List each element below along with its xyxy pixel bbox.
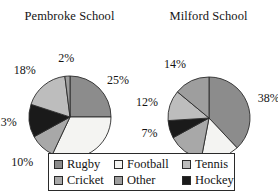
legend-swatch-icon [182, 160, 191, 169]
legend-item-football: Football [114, 158, 182, 171]
legend-swatch-icon [54, 176, 63, 185]
pie-slice-label-rugby: 38% [258, 92, 278, 104]
pie-slice-label-hockey: 7% [142, 127, 158, 139]
pie-slice-label-cricket: 10% [11, 156, 33, 168]
chart-milford-school: Milford School 38%15%14%7%12%14% [139, 0, 278, 150]
legend-swatch-icon [54, 160, 63, 169]
chart-legend: RugbyFootballTennisCricketOtherHockey [48, 153, 235, 191]
legend-item-label: Rugby [67, 158, 100, 171]
pie-slice-label-tennis: 18% [14, 64, 36, 76]
chart-pembroke-school: Pembroke School 25%32%10%13%18%2% [0, 0, 139, 150]
pie-charts-row: Pembroke School 25%32%10%13%18%2% Milfor… [0, 0, 278, 150]
pie-slice-label-other: 2% [58, 52, 74, 64]
pie-slice-label-other: 14% [164, 58, 186, 70]
pie-slice-label-tennis: 12% [136, 96, 158, 108]
legend-item-label: Tennis [195, 158, 228, 171]
pie-slice-label-rugby: 25% [107, 74, 129, 86]
legend-swatch-icon [182, 176, 191, 185]
legend-swatch-icon [114, 176, 123, 185]
legend-swatch-icon [114, 160, 123, 169]
chart-title: Milford School [139, 9, 278, 24]
pie-slice-rugby [70, 76, 111, 117]
legend-item-label: Cricket [67, 174, 104, 187]
legend-item-label: Other [127, 174, 155, 187]
legend-item-label: Football [127, 158, 169, 171]
legend-item-hockey: Hockey [182, 174, 240, 187]
legend-item-tennis: Tennis [182, 158, 240, 171]
legend-item-rugby: Rugby [54, 158, 114, 171]
chart-title: Pembroke School [0, 9, 139, 24]
legend-item-label: Hockey [195, 174, 234, 187]
legend-item-cricket: Cricket [54, 174, 114, 187]
pie-slice-label-hockey: 13% [0, 116, 17, 128]
legend-item-other: Other [114, 174, 182, 187]
